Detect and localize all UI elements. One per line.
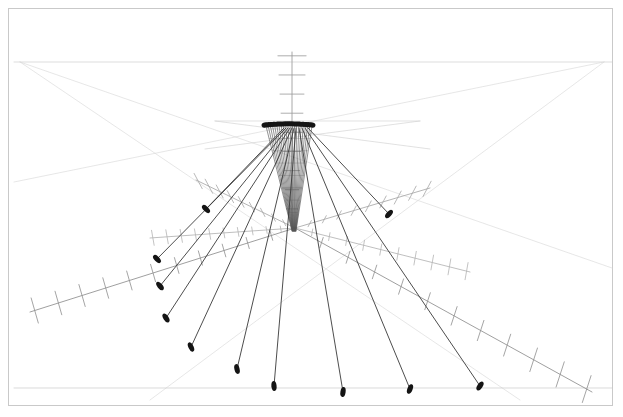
vector-head-marker-6 bbox=[271, 381, 277, 391]
axis-upper-left-tick bbox=[260, 208, 264, 216]
axis-upper-left-tick bbox=[194, 173, 202, 188]
vector-head-marker-4 bbox=[187, 341, 196, 352]
axis-mid-left-tick bbox=[280, 226, 281, 232]
axis-lower-right-tick bbox=[582, 376, 591, 403]
figure-canvas bbox=[0, 0, 623, 417]
axis-lower-right-tick bbox=[372, 265, 376, 279]
axis-lower-right-tick bbox=[530, 348, 538, 372]
axis-lower-left-tick bbox=[103, 278, 109, 298]
axis-lower-left-tick bbox=[151, 264, 156, 281]
axis-lower-right-tick bbox=[556, 362, 564, 387]
axis-upper-right-tick bbox=[394, 191, 401, 204]
axis-upper-right-tick bbox=[423, 181, 431, 196]
axis-upper-right bbox=[295, 181, 431, 228]
axis-mid-left-tick bbox=[266, 227, 267, 234]
axis-lower-right-tick bbox=[399, 279, 404, 294]
axis-lower-left bbox=[30, 228, 295, 323]
vector-7 bbox=[299, 128, 346, 397]
vector-shaft-7 bbox=[299, 128, 343, 392]
vector-head-marker-8 bbox=[406, 383, 415, 394]
axis-lower-right-tick bbox=[451, 307, 457, 326]
axis-mid-left bbox=[150, 226, 295, 245]
axes-layer bbox=[30, 52, 592, 403]
perspective-ray-a bbox=[20, 62, 612, 268]
vector-4 bbox=[187, 128, 292, 353]
perspective-ray-c bbox=[14, 62, 604, 182]
axis-lower-left-tick bbox=[31, 298, 38, 323]
axis-lower-right bbox=[295, 228, 592, 403]
axis-upper-right-spine bbox=[295, 188, 430, 228]
vector-2 bbox=[155, 128, 288, 292]
plane-diag-left bbox=[215, 121, 430, 149]
axis-lower-right-spine bbox=[295, 228, 592, 392]
vector-shaft-2 bbox=[160, 128, 288, 286]
perspective-ray-d bbox=[150, 62, 604, 400]
axis-mid-right bbox=[295, 228, 470, 280]
axis-upper-left-tick bbox=[205, 179, 213, 193]
axis-upper-right-tick bbox=[366, 201, 372, 212]
axis-lower-right-tick bbox=[425, 293, 431, 310]
vector-8 bbox=[302, 128, 414, 395]
axis-lower-left-tick bbox=[79, 285, 85, 307]
axis-lower-left-tick bbox=[55, 291, 62, 315]
vector-head-marker-5 bbox=[233, 364, 240, 375]
vector-head-marker-9 bbox=[475, 380, 485, 391]
axis-upper-left-tick bbox=[283, 220, 286, 226]
axis-upper-right-tick bbox=[351, 206, 356, 216]
vector-head-marker-3 bbox=[161, 312, 171, 323]
axis-lower-left-tick bbox=[127, 271, 132, 290]
axis-lower-right-tick bbox=[320, 237, 323, 247]
axis-lower-right-tick bbox=[346, 251, 350, 263]
axis-lower-right-tick bbox=[504, 334, 511, 356]
vectors-layer bbox=[152, 128, 485, 397]
horizon-layer bbox=[14, 62, 612, 400]
plot-svg bbox=[0, 0, 623, 417]
axis-mid-right-tick bbox=[312, 229, 313, 236]
axis-lower-right-tick bbox=[477, 320, 484, 340]
vector-shaft-4 bbox=[191, 128, 292, 347]
axis-lower-left-spine bbox=[30, 228, 295, 312]
vector-5 bbox=[233, 128, 294, 374]
